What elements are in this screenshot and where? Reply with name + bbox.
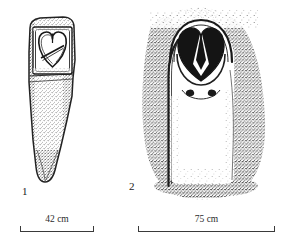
figure-1-scalebar: 42 cm [20, 214, 94, 232]
figure-1-drawing [0, 0, 120, 210]
figure-1-scalebar-label: 42 cm [20, 214, 94, 224]
figure-2: 2 75 cm [120, 0, 281, 241]
figure-2-scalebar: 75 cm [138, 214, 275, 232]
figure-2-scalebar-tick-right [274, 226, 275, 232]
figure-2-number-label: 2 [129, 181, 135, 192]
figure-2-drawing [120, 0, 281, 210]
figure-plate: 1 42 cm [0, 0, 281, 241]
figure-2-scalebar-bar [138, 231, 275, 232]
figure-2-scalebar-label: 75 cm [138, 214, 275, 224]
figure-1-number-label: 1 [22, 186, 28, 197]
figure-1-scalebar-tick-right [93, 226, 94, 232]
figure-1-scalebar-rule [20, 226, 94, 232]
figure-1-scalebar-bar [20, 231, 94, 232]
figure-2-scalebar-rule [138, 226, 275, 232]
figure-1: 1 42 cm [0, 0, 120, 241]
